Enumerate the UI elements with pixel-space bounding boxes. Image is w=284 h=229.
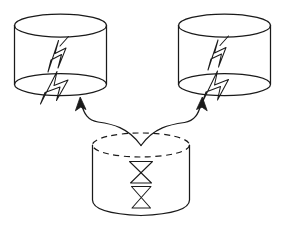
arrow-bottom-to-right-shaft [141, 104, 201, 146]
arrow-bottom-to-right[interactable] [141, 97, 207, 146]
lightning-bolt-icon [208, 36, 229, 70]
diagram-canvas: Two source cylinders feeding from a lowe… [0, 0, 284, 229]
cylinder-top-left-top-ellipse [15, 14, 107, 37]
cylinder-top-left-bottom-ellipse [15, 74, 107, 96]
cylinder-top-right-bottom-ellipse [179, 74, 271, 96]
hourglass-icon [130, 162, 153, 184]
lightning-bolt-icon [202, 71, 229, 103]
cylinder-top-right-top-ellipse [179, 14, 271, 37]
arrow-bottom-to-left-shaft [82, 104, 142, 146]
lightning-bolt-icon [41, 72, 69, 105]
diagram-svg [0, 0, 284, 229]
hourglass-icon [132, 187, 152, 209]
cylinder-top-left[interactable] [15, 14, 107, 104]
cylinder-top-right[interactable] [179, 14, 271, 103]
arrow-bottom-to-left[interactable] [75, 97, 141, 146]
arrowhead-icon [75, 97, 86, 111]
lightning-bolt-icon [48, 37, 69, 73]
arrowhead-icon [197, 97, 208, 111]
